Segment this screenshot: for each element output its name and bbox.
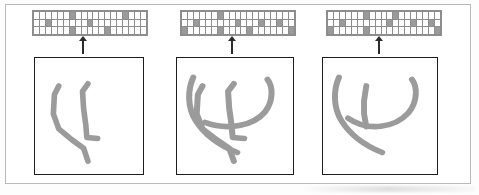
feature-cell: [70, 27, 75, 34]
feature-cell: [387, 20, 392, 27]
feature-cell: [230, 20, 235, 27]
feature-cell: [117, 27, 122, 34]
feature-extraction-arrow-3: [374, 36, 384, 54]
feature-cell: [218, 12, 223, 19]
feature-cell: [99, 20, 104, 27]
feature-cell: [271, 20, 276, 27]
feature-cell: [64, 27, 69, 34]
feature-cell: [247, 20, 252, 27]
feature-cell: [129, 27, 134, 34]
feature-cell: [206, 27, 211, 34]
pen-stroke: [228, 84, 244, 139]
feature-cell: [40, 12, 45, 19]
feature-cell: [277, 12, 282, 19]
feature-cell: [212, 27, 217, 34]
feature-cell: [218, 20, 223, 27]
feature-cell: [271, 12, 276, 19]
panel-stage-1: [28, 0, 156, 180]
feature-cell: [370, 27, 375, 34]
feature-cell: [277, 27, 282, 34]
feature-cell: [200, 20, 205, 27]
drawing-canvas-1[interactable]: [34, 57, 144, 175]
feature-cell: [105, 20, 110, 27]
sketch-strokes-2: [177, 58, 293, 174]
feature-cell: [423, 27, 428, 34]
feature-cell: [352, 12, 357, 19]
pen-stroke: [364, 86, 366, 127]
feature-cell: [111, 27, 116, 34]
feature-cell: [405, 20, 410, 27]
feature-cell: [188, 20, 193, 27]
drawing-canvas-3[interactable]: [322, 57, 438, 175]
feature-cell: [76, 12, 81, 19]
feature-cell: [218, 27, 223, 34]
feature-grid-1[interactable]: [32, 10, 148, 36]
feature-cell: [230, 27, 235, 34]
feature-cell: [123, 12, 128, 19]
feature-cell: [283, 27, 288, 34]
arrow-shaft: [231, 40, 233, 54]
feature-cell: [224, 27, 229, 34]
feature-cell: [399, 20, 404, 27]
feature-cell: [265, 27, 270, 34]
feature-cell: [64, 12, 69, 19]
feature-cell: [340, 27, 345, 34]
feature-cell: [76, 20, 81, 27]
feature-cell: [405, 12, 410, 19]
feature-cell: [236, 20, 241, 27]
feature-cell: [212, 20, 217, 27]
feature-cell: [224, 12, 229, 19]
feature-cell: [271, 27, 276, 34]
feature-cell: [99, 27, 104, 34]
feature-cell: [352, 20, 357, 27]
feature-cell: [52, 20, 57, 27]
drawing-canvas-2[interactable]: [176, 57, 294, 175]
feature-cell: [334, 20, 339, 27]
feature-cell: [194, 27, 199, 34]
feature-cell: [358, 27, 363, 34]
feature-cell: [253, 20, 258, 27]
feature-cell: [241, 27, 246, 34]
panel-stage-2: [172, 0, 308, 180]
feature-cell: [141, 20, 146, 27]
feature-cell: [93, 20, 98, 27]
feature-cell: [129, 20, 134, 27]
feature-cell: [182, 12, 187, 19]
feature-cell: [70, 20, 75, 27]
pen-stroke: [348, 79, 416, 126]
feature-cell: [111, 20, 116, 27]
feature-cell: [105, 12, 110, 19]
feature-cell: [253, 12, 258, 19]
arrow-shaft: [378, 40, 380, 54]
feature-cell: [259, 12, 264, 19]
figure-root: [0, 0, 479, 195]
feature-extraction-arrow-2: [227, 36, 237, 54]
feature-cell: [328, 20, 333, 27]
feature-cell: [52, 12, 57, 19]
feature-cell: [40, 27, 45, 34]
feature-cell: [64, 20, 69, 27]
feature-grid-3[interactable]: [326, 10, 442, 36]
feature-cell: [46, 12, 51, 19]
feature-cell: [423, 20, 428, 27]
feature-cell: [46, 20, 51, 27]
feature-cell: [135, 27, 140, 34]
feature-cell: [70, 12, 75, 19]
feature-cell: [40, 20, 45, 27]
feature-cell: [370, 20, 375, 27]
feature-cell: [340, 12, 345, 19]
feature-cell: [52, 27, 57, 34]
feature-cell: [364, 12, 369, 19]
feature-cell: [423, 12, 428, 19]
feature-cell: [247, 12, 252, 19]
feature-cell: [206, 12, 211, 19]
feature-cell: [334, 12, 339, 19]
feature-cell: [340, 20, 345, 27]
feature-cell: [429, 27, 434, 34]
panel-stage-3: [320, 0, 456, 180]
feature-cell: [334, 27, 339, 34]
feature-cell: [382, 20, 387, 27]
feature-cell: [93, 27, 98, 34]
feature-grid-2[interactable]: [180, 10, 296, 36]
feature-cell: [289, 20, 294, 27]
